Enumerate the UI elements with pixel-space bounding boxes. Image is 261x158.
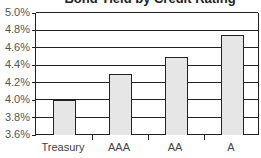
y-tick-label: 3.8% <box>0 111 30 123</box>
y-tick-label: 5.0% <box>0 6 30 18</box>
y-tick <box>32 65 36 66</box>
y-tick <box>32 82 36 83</box>
bar-aaa <box>109 74 132 135</box>
bar-a <box>221 35 244 135</box>
y-tick <box>32 13 36 14</box>
y-tick-label: 4.2% <box>0 76 30 88</box>
y-tick <box>32 30 36 31</box>
x-tick-label: AA <box>147 141 203 153</box>
gridline <box>36 30 258 31</box>
x-tick <box>204 135 205 140</box>
y-tick-label: 4.0% <box>0 93 30 105</box>
y-tick <box>32 135 36 136</box>
y-tick-label: 4.8% <box>0 23 30 35</box>
bar-aa <box>165 57 188 135</box>
x-tick <box>92 135 93 140</box>
x-tick-label: A <box>203 141 259 153</box>
y-tick <box>32 100 36 101</box>
x-tick <box>148 135 149 140</box>
gridline <box>36 12 258 13</box>
chart-title: Bond Yield by Credit Rating <box>40 0 260 6</box>
y-tick <box>32 47 36 48</box>
y-tick-label: 3.6% <box>0 128 30 140</box>
y-tick-label: 4.4% <box>0 58 30 70</box>
y-tick <box>32 117 36 118</box>
y-tick-label: 4.6% <box>0 41 30 53</box>
x-tick-label: Treasury <box>35 141 91 153</box>
plot-area <box>35 13 259 135</box>
x-tick-label: AAA <box>91 141 147 153</box>
bar-treasury <box>53 100 76 135</box>
